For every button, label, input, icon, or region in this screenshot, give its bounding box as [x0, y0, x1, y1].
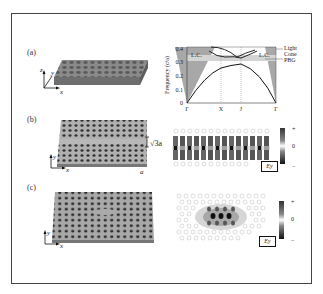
svg-text:√3a: √3a	[150, 139, 162, 148]
colorbar-minus-b: −	[292, 163, 295, 169]
colorbar-zero-b: 0	[292, 143, 295, 149]
svg-text:y: y	[50, 69, 55, 77]
band-diagram-chart: 0 0.1 0.2 0.3 0.4 Γ X J Γ Frequency (c/a…	[165, 45, 305, 115]
svg-text:L.C.: L.C.	[191, 52, 202, 58]
axes-triad-a: z y x	[40, 64, 65, 94]
svg-text:z: z	[39, 66, 43, 74]
panel-label-a: (a)	[27, 48, 36, 57]
colorbar-plus-c: +	[291, 199, 294, 205]
field-component-label-c: Ey	[259, 236, 276, 247]
svg-text:Γ: Γ	[185, 106, 189, 112]
svg-text:0.4: 0.4	[176, 46, 184, 52]
svg-text:L.C.: L.C.	[259, 52, 270, 58]
dimension-annotation: √3a	[145, 135, 175, 155]
w1-waveguide-slab	[55, 118, 155, 170]
axes-triad-c: y x	[42, 228, 64, 248]
colorbar-zero-c: 0	[291, 216, 294, 222]
svg-text:0.1: 0.1	[176, 87, 184, 93]
colorbar-minus-c: −	[291, 237, 294, 243]
panel-label-b: (b)	[27, 115, 36, 124]
svg-text:Γ: Γ	[274, 106, 278, 112]
panel-label-c: (c)	[27, 183, 36, 192]
svg-text:0.3: 0.3	[176, 59, 184, 65]
lattice-constant-label: a	[140, 168, 144, 176]
svg-text:0: 0	[180, 100, 183, 106]
axes-triad-b: y x	[48, 152, 70, 172]
colorbar-c	[279, 201, 284, 239]
field-component-label-b: Ey	[261, 161, 278, 172]
svg-text:X: X	[219, 106, 224, 112]
svg-text:y: y	[46, 229, 51, 237]
colorbar-plus-b: +	[292, 126, 295, 132]
l3-cavity-slab	[50, 190, 160, 245]
svg-text:y: y	[52, 153, 57, 161]
svg-text:Frequency (c/a): Frequency (c/a)	[164, 56, 171, 94]
svg-text:J: J	[240, 106, 243, 112]
svg-text:PBG: PBG	[284, 57, 296, 63]
colorbar-b	[280, 128, 285, 164]
svg-text:0.2: 0.2	[176, 73, 184, 79]
